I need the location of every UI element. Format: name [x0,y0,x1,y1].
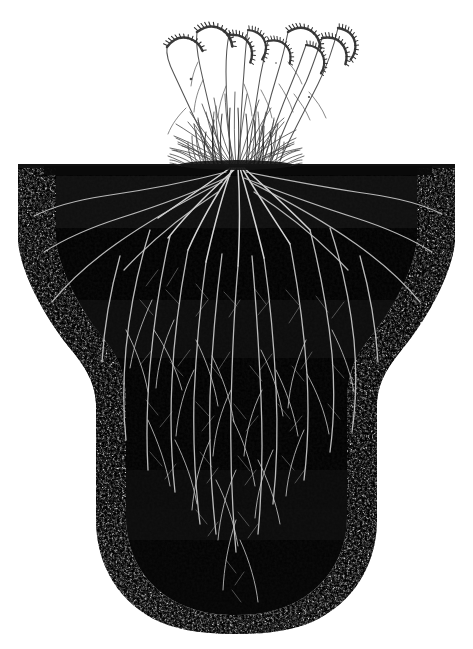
root-profile-illustration [0,0,473,649]
botanical-plate-figure [0,0,473,649]
tuft-crown-clump [180,160,292,170]
soil-profile-block [0,140,473,649]
